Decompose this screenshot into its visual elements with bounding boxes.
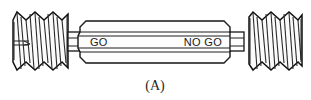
right-neck-group (230, 32, 244, 51)
no-go-threaded-end-group (249, 12, 302, 70)
no-go-label: NO GO (184, 36, 222, 48)
figure-container: GO NO GO (0, 0, 311, 100)
go-threaded-end-group (13, 12, 68, 70)
thread-plug-gauge-drawing: GO NO GO (0, 0, 311, 100)
right-neck (230, 32, 244, 51)
figure-caption: (A) (145, 78, 165, 94)
hex-handle-body-group: GO NO GO (78, 21, 232, 63)
go-label: GO (90, 36, 108, 48)
